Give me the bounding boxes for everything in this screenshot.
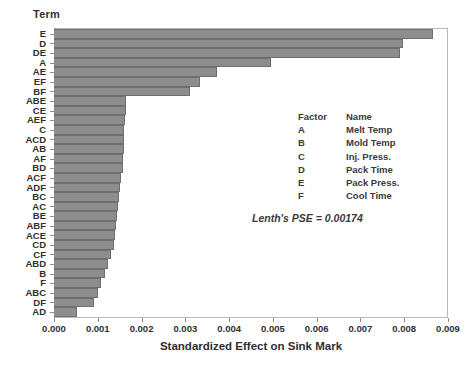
- factor-legend-name: Cool Time: [346, 189, 399, 202]
- factor-legend-name: Melt Temp: [346, 123, 399, 136]
- bar: [54, 48, 400, 58]
- x-axis-tick-label: 0.007: [349, 323, 373, 334]
- x-axis-tick: [185, 318, 186, 322]
- x-axis-tick-label: 0.008: [392, 323, 416, 334]
- bar: [54, 211, 117, 221]
- x-axis-tick-label: 0.004: [217, 323, 241, 334]
- factor-legend-code: C: [298, 150, 346, 163]
- bar-row: [54, 29, 448, 39]
- bar-row: [54, 202, 448, 212]
- factor-legend-row: BMold Temp: [298, 136, 399, 149]
- factor-legend-row: DPack Time: [298, 163, 399, 176]
- x-axis-tick: [229, 318, 230, 322]
- bar: [54, 154, 123, 164]
- bar: [54, 115, 125, 125]
- factor-legend-code: D: [298, 163, 346, 176]
- bar: [54, 240, 114, 250]
- factor-legend-header-code: Factor: [298, 110, 346, 123]
- lenths-pse-annotation: Lenth's PSE = 0.00174: [252, 212, 363, 224]
- bar-row: [54, 96, 448, 106]
- factor-legend-header-name: Name: [346, 110, 399, 123]
- bar: [54, 298, 94, 308]
- x-axis-tick-label: 0.000: [42, 323, 66, 334]
- bar-row: [54, 230, 448, 240]
- bar: [54, 125, 124, 135]
- bar-row: [54, 288, 448, 298]
- x-axis-tick-label: 0.009: [436, 323, 460, 334]
- bar: [54, 221, 116, 231]
- bar: [54, 192, 119, 202]
- factor-legend-code: A: [298, 123, 346, 136]
- bar: [54, 202, 118, 212]
- bar-row: [54, 259, 448, 269]
- x-axis-tick: [404, 318, 405, 322]
- bar: [54, 87, 190, 97]
- bar: [54, 278, 101, 288]
- bar: [54, 288, 98, 298]
- x-axis-tick-label: 0.002: [130, 323, 154, 334]
- x-axis-tick-label: 0.001: [86, 323, 110, 334]
- x-axis-tick-label: 0.003: [173, 323, 197, 334]
- bar: [54, 77, 200, 87]
- x-axis-tick: [98, 318, 99, 322]
- x-axis-tick: [142, 318, 143, 322]
- bar: [54, 250, 111, 260]
- x-axis-tick-labels: 0.0000.0010.0020.0030.0040.0050.0060.007…: [54, 323, 448, 337]
- x-axis-tick-label: 0.005: [261, 323, 285, 334]
- factor-legend-code: B: [298, 136, 346, 149]
- bar-row: [54, 67, 448, 77]
- bar-row: [54, 77, 448, 87]
- factor-legend-name: Pack Time: [346, 163, 399, 176]
- x-axis-tick: [317, 318, 318, 322]
- factor-legend: Factor Name AMelt TempBMold TempCInj. Pr…: [298, 110, 399, 202]
- y-axis-label: AD: [0, 307, 48, 317]
- factor-legend-code: E: [298, 176, 346, 189]
- factor-legend-name: Inj. Press.: [346, 150, 399, 163]
- term-axis-header: Term: [14, 8, 60, 20]
- factor-legend-row: EPack Press.: [298, 176, 399, 189]
- x-axis-tick: [360, 318, 361, 322]
- bar: [54, 144, 124, 154]
- bar: [54, 135, 124, 145]
- factor-legend-name: Pack Press.: [346, 176, 399, 189]
- factor-legend-table: Factor Name AMelt TempBMold TempCInj. Pr…: [298, 110, 399, 202]
- x-axis-title: Standardized Effect on Sink Mark: [54, 340, 448, 352]
- bar-row: [54, 298, 448, 308]
- factor-legend-row: CInj. Press.: [298, 150, 399, 163]
- pareto-chart: Term EDDEAAEEFBFABECEAEFCACDABAFBDACFADF…: [0, 0, 467, 368]
- bar: [54, 230, 115, 240]
- factor-legend-row: FCool Time: [298, 189, 399, 202]
- bar-row: [54, 221, 448, 231]
- bar: [54, 183, 120, 193]
- factor-legend-body: AMelt TempBMold TempCInj. Press.DPack Ti…: [298, 123, 399, 202]
- x-axis-tick: [448, 318, 449, 322]
- bar-row: [54, 58, 448, 68]
- bar: [54, 259, 108, 269]
- y-axis-term-labels: EDDEAAEEFBFABECEAEFCACDABAFBDACFADFBCACB…: [0, 29, 48, 317]
- bar-row: [54, 48, 448, 58]
- factor-legend-code: F: [298, 189, 346, 202]
- bar: [54, 29, 433, 39]
- bar: [54, 39, 403, 49]
- bar: [54, 96, 126, 106]
- bar: [54, 173, 121, 183]
- x-axis-tick: [273, 318, 274, 322]
- x-axis-tick: [54, 318, 55, 322]
- factor-legend-header-row: Factor Name: [298, 110, 399, 123]
- factor-legend-name: Mold Temp: [346, 136, 399, 149]
- bar: [54, 58, 271, 68]
- bar-row: [54, 269, 448, 279]
- bar: [54, 163, 123, 173]
- bar-row: [54, 87, 448, 97]
- bar: [54, 67, 217, 77]
- bar: [54, 106, 126, 116]
- factor-legend-row: AMelt Temp: [298, 123, 399, 136]
- bar-row: [54, 39, 448, 49]
- bar-row: [54, 211, 448, 221]
- bar-row: [54, 278, 448, 288]
- x-axis-tick-label: 0.006: [305, 323, 329, 334]
- bar-row: [54, 240, 448, 250]
- bar: [54, 269, 105, 279]
- bar-row: [54, 307, 448, 317]
- bar-row: [54, 250, 448, 260]
